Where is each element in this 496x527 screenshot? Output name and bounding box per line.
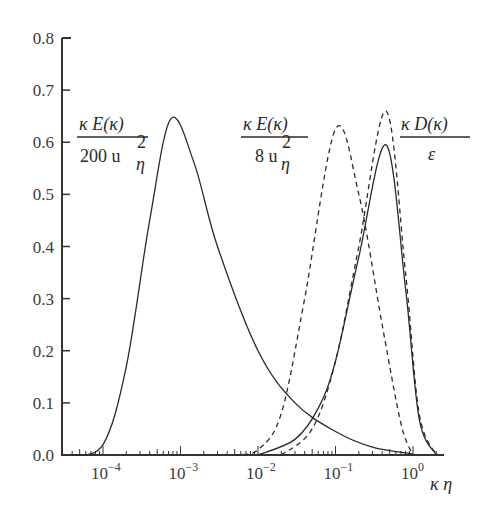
curve-series-1 — [235, 126, 413, 455]
y-tick-label: 0.6 — [33, 133, 54, 152]
x-axis-ticks: 10−410−310−210−1100 — [72, 446, 436, 483]
axis-lines — [62, 38, 444, 455]
spectrum-chart: 0.00.10.20.30.40.50.60.70.8 10−410−310−2… — [0, 0, 496, 527]
label3-numerator: κ D(κ) — [401, 114, 448, 135]
label2-sub: η — [281, 154, 290, 174]
label1-sub: η — [136, 154, 145, 174]
y-tick-label: 0.4 — [33, 238, 55, 257]
label-dissipation-spectrum: κ D(κ) ε — [400, 114, 470, 164]
y-tick-label: 0.3 — [33, 290, 54, 309]
label1-numerator: κ E(κ) — [79, 114, 124, 135]
x-axis-label: κ η — [430, 474, 452, 494]
label2-sup: 2 — [282, 132, 291, 152]
label1-denominator: 200 u — [80, 146, 121, 166]
label2-denominator: 8 u — [255, 146, 278, 166]
y-tick-label: 0.2 — [33, 342, 54, 361]
axes — [62, 38, 444, 455]
x-tick-label: 10−1 — [324, 460, 354, 483]
y-tick-label: 0.7 — [33, 81, 55, 100]
label3-denominator: ε — [428, 144, 436, 164]
x-tick-label: 10−2 — [246, 460, 276, 483]
x-tick-label: 10−4 — [91, 460, 121, 483]
y-tick-label: 0.0 — [33, 446, 54, 465]
label-energy-spectrum-low-re: κ E(κ) 8 u 2 η — [241, 114, 308, 174]
y-axis-ticks: 0.00.10.20.30.40.50.60.70.8 — [33, 29, 70, 465]
curve-series-0 — [72, 117, 413, 455]
curve-series-3 — [258, 145, 436, 455]
label1-sup: 2 — [137, 132, 146, 152]
y-tick-label: 0.5 — [33, 185, 54, 204]
y-tick-label: 0.8 — [33, 29, 54, 48]
y-tick-label: 0.1 — [33, 394, 54, 413]
x-tick-label: 10−3 — [169, 460, 199, 483]
label-energy-spectrum-high-re: κ E(κ) 200 u 2 η — [77, 114, 148, 174]
curve-series-2 — [281, 111, 436, 455]
x-tick-label: 100 — [401, 460, 424, 483]
